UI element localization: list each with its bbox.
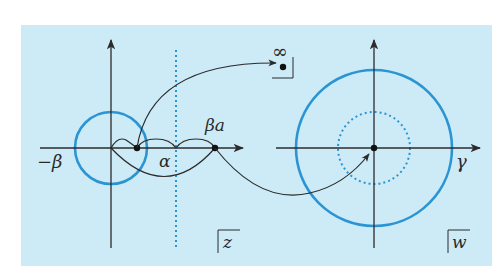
panel-background: [21, 25, 492, 266]
label-gamma: γ: [456, 151, 467, 172]
infinity-point: [280, 64, 286, 70]
label-beta-a: βa: [204, 115, 225, 135]
conformal-map-diagram: −β α βa z ∞ γ w: [0, 0, 504, 275]
w-origin-point: [371, 145, 377, 151]
z-plane-tag: z: [222, 232, 233, 252]
diagram-canvas: −β α βa z ∞ γ w: [0, 0, 504, 275]
label-infinity: ∞: [272, 40, 288, 62]
label-minus-beta: −β: [37, 151, 63, 172]
label-alpha: α: [159, 151, 171, 171]
w-plane-tag: w: [452, 232, 467, 252]
